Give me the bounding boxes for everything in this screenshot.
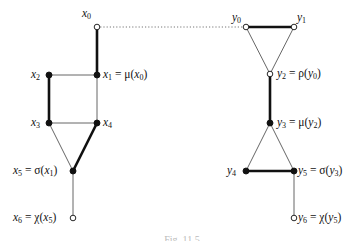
label-x5: x5 = σ(x1) — [13, 165, 57, 178]
node-x5-filled — [70, 168, 76, 174]
label-x4: x4 — [103, 117, 112, 130]
label-y6: y6 = χ(y5) — [298, 212, 341, 225]
node-y2-open — [267, 71, 273, 77]
node-x4-filled — [94, 120, 100, 126]
node-y3-filled — [267, 120, 273, 126]
node-y6-open — [291, 215, 297, 221]
node-x2-filled — [46, 72, 52, 78]
node-y1-open — [291, 24, 297, 30]
thin-edge-y3-y5 — [270, 123, 294, 171]
thin-edge-y0-y2 — [246, 27, 270, 74]
node-x3-filled — [46, 120, 52, 126]
label-y3: y3 = μ(y2) — [277, 117, 321, 130]
label-x2: x2 — [31, 69, 40, 82]
node-x1-filled — [94, 72, 100, 78]
label-y0: y0 — [232, 12, 241, 25]
label-y4: y4 — [227, 165, 236, 178]
node-y0-open — [243, 24, 249, 30]
label-y5: y5 = σ(y3) — [298, 165, 342, 178]
node-y4-filled — [243, 168, 249, 174]
label-x6: x6 = χ(x5) — [13, 212, 56, 225]
thin-edge-y3-y4 — [246, 123, 270, 171]
thick-edge-x4-x5 — [73, 123, 97, 171]
label-x1: x1 = μ(x0) — [103, 69, 147, 82]
label-y1: y1 — [297, 12, 306, 25]
figure-caption: Fig. 11.5 — [0, 234, 364, 241]
node-x6-open — [70, 215, 76, 221]
label-x3: x3 — [31, 117, 40, 130]
node-y5-filled — [291, 168, 297, 174]
label-x0: x0 — [82, 8, 91, 21]
label-y2: y2 = ρ(y0) — [277, 68, 321, 81]
edges — [49, 27, 294, 218]
node-x0-open — [94, 24, 100, 30]
